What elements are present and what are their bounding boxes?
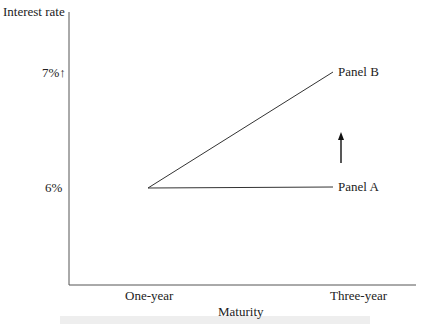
yield-curve-diagram (0, 0, 421, 324)
panel-b-line (148, 72, 333, 188)
x-axis-label: Maturity (218, 304, 264, 320)
y-tick-6: 6% (45, 180, 62, 196)
x-tick-one-year: One-year (125, 288, 173, 304)
panel-a-line (148, 187, 333, 188)
panel-b-label: Panel B (338, 64, 379, 80)
x-tick-three-year: Three-year (330, 288, 387, 304)
cut-off-caption (60, 316, 370, 324)
y-axis-label: Interest rate (3, 4, 65, 20)
panel-a-label: Panel A (338, 179, 379, 195)
up-arrow-icon (338, 132, 344, 163)
y-tick-7: 7%↑ (42, 65, 66, 81)
